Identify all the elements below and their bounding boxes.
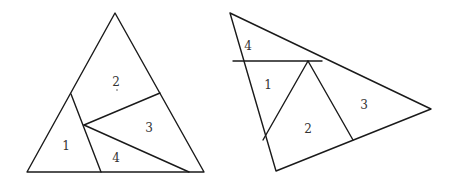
piece-label: 1: [62, 139, 70, 153]
left-triangle-cut-line: [84, 125, 189, 172]
right-triangle-cut-line: [263, 61, 308, 140]
piece-label: 3: [360, 98, 368, 112]
piece-label: 4: [244, 39, 252, 53]
right-triangle-outline: [230, 13, 431, 171]
left-triangle-cut-line: [71, 94, 101, 172]
right-triangle-cut-line: [308, 61, 353, 140]
diagram-stage: 1234 4123: [0, 0, 456, 185]
diagram-canvas: 1234 4123: [0, 0, 456, 185]
left-triangle-outline: [27, 13, 204, 172]
piece-label: 2: [304, 122, 312, 136]
piece-label: 1: [264, 78, 272, 92]
piece-label: 4: [112, 151, 120, 165]
piece-label: 2: [112, 75, 120, 89]
right-triangle-figure: 4123: [230, 13, 431, 171]
left-triangle-figure: 1234: [27, 13, 204, 172]
piece-label: 3: [145, 121, 153, 135]
center-mark: [116, 89, 118, 91]
